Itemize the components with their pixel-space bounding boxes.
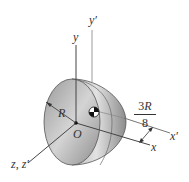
fraction-numerator: 3R [134,100,156,112]
z-axis-label: z, z′ [11,158,29,170]
origin-label: O [73,128,82,140]
diagram-graphics [0,0,189,182]
y-axis-label: y [73,31,78,43]
offset-fraction-label: 3R 8 [134,100,156,129]
y-prime-axis-label: y′ [89,14,97,26]
hemisphere-flat-face [44,79,100,165]
numerator-variable: R [144,99,151,113]
fraction-bar [134,114,156,115]
x-prime-axis-label: x′ [170,130,178,142]
hemisphere-diagram: y′ y R O x′ x z, z′ 3R 8 [0,0,189,182]
fraction-denominator: 8 [134,117,156,129]
radius-label: R [58,107,65,119]
center-of-mass-icon [89,107,99,117]
x-axis-label: x [151,141,156,153]
